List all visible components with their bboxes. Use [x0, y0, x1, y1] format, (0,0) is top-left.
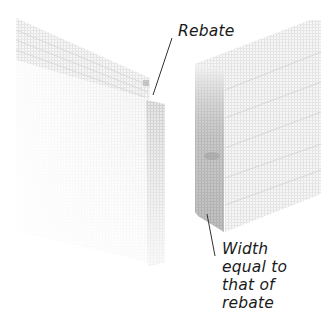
rebate-label: Rebate: [178, 22, 234, 40]
width-label-line-4: rebate: [222, 294, 287, 312]
width-label-line-1: Width: [222, 240, 287, 258]
rebate-leader-line: [153, 38, 172, 95]
left-board: [16, 18, 165, 266]
width-equal-label: Width equal to that of rebate: [222, 240, 287, 312]
width-label-line-3: that of: [222, 276, 287, 294]
rebate-notch: [143, 80, 149, 86]
width-label-line-2: equal to: [222, 258, 287, 276]
right-board: [195, 20, 321, 232]
knot-mark: [204, 152, 220, 160]
